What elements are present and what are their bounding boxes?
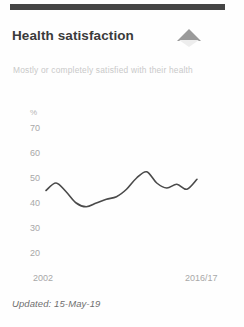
y-axis-tick-50: 50 <box>30 173 56 183</box>
y-axis-tick-70: 70 <box>30 123 56 133</box>
card-top-rule <box>10 4 225 10</box>
page-title: Health satisfaction <box>12 28 134 43</box>
updated-label: Updated: 15-May-19 <box>12 298 100 309</box>
y-axis-tick-20: 20 <box>30 248 56 258</box>
card-subtitle: Mostly or completely satisfied with thei… <box>13 64 201 77</box>
x-axis-tick-end: 2016/17 <box>185 273 218 283</box>
x-axis-tick-start: 2002 <box>33 273 53 283</box>
y-axis-tick-30: 30 <box>30 223 56 233</box>
y-axis-tick-60: 60 <box>30 148 56 158</box>
series-line <box>46 172 197 207</box>
health-satisfaction-card: Health satisfaction Mostly or completely… <box>0 0 244 327</box>
y-axis-unit-label: % <box>30 108 37 117</box>
y-axis-tick-40: 40 <box>30 198 56 208</box>
up-triangle-icon <box>174 27 204 49</box>
